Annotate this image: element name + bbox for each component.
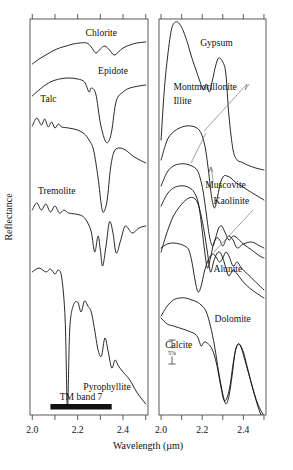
x-tick-label: 2.0 <box>155 424 167 435</box>
leader-kaolinite <box>214 210 253 252</box>
series-label-talc: Talc <box>40 93 56 104</box>
series-label-epidote: Epidote <box>98 65 128 76</box>
curve-tremolite <box>32 203 145 266</box>
tm-band-7-label: TM band 7 <box>60 391 103 402</box>
y-axis-title: Reflectance <box>3 193 14 241</box>
series-label-montmorillonite: Montmorillonite <box>173 81 236 92</box>
panel-left: 2.02.22.4ChloriteEpidoteTalcTremolitePyr… <box>26 14 148 435</box>
x-tick-label: 2.2 <box>196 424 208 435</box>
spectral-reflectance-figure: 2.02.22.4ChloriteEpidoteTalcTremolitePyr… <box>0 0 293 470</box>
series-label-dolomite: Dolomite <box>215 313 251 324</box>
leader-illite <box>191 133 206 163</box>
x-tick-label: 2.4 <box>117 424 129 435</box>
curve-talc <box>32 118 145 212</box>
x-axis-title: Wavelength (µm) <box>113 440 183 452</box>
curve-chlorite <box>32 42 145 64</box>
series-label-alunite: Alunite <box>214 263 243 274</box>
panel-right: 2.02.22.4GypsumMontmorilloniteIlliteMusc… <box>155 14 266 435</box>
series-label-illite: Illite <box>173 95 191 106</box>
series-label-muscovite: Muscovite <box>205 179 246 190</box>
curve-epidote <box>32 78 145 143</box>
tick-labels-left: 2.02.22.4 <box>26 424 129 435</box>
series-label-gypsum: Gypsum <box>200 37 233 48</box>
series-label-calcite: Calcite <box>165 339 192 350</box>
scale-bar-label: 5% <box>168 350 176 356</box>
ticks-left <box>32 14 145 420</box>
x-tick-label: 2.0 <box>26 424 38 435</box>
tick-labels-right: 2.02.22.4 <box>155 424 250 435</box>
series-label-kaolinite: Kaolinite <box>214 195 250 206</box>
series-label-tremolite: Tremolite <box>38 185 76 196</box>
ticks-right <box>161 14 264 420</box>
tm-band-7-bar <box>50 404 111 410</box>
x-tick-label: 2.4 <box>237 424 249 435</box>
plot-frame-left <box>30 19 148 415</box>
figure-canvas: 2.02.22.4ChloriteEpidoteTalcTremolitePyr… <box>0 0 293 470</box>
x-tick-label: 2.2 <box>72 424 84 435</box>
series-label-chlorite: Chlorite <box>86 27 117 38</box>
